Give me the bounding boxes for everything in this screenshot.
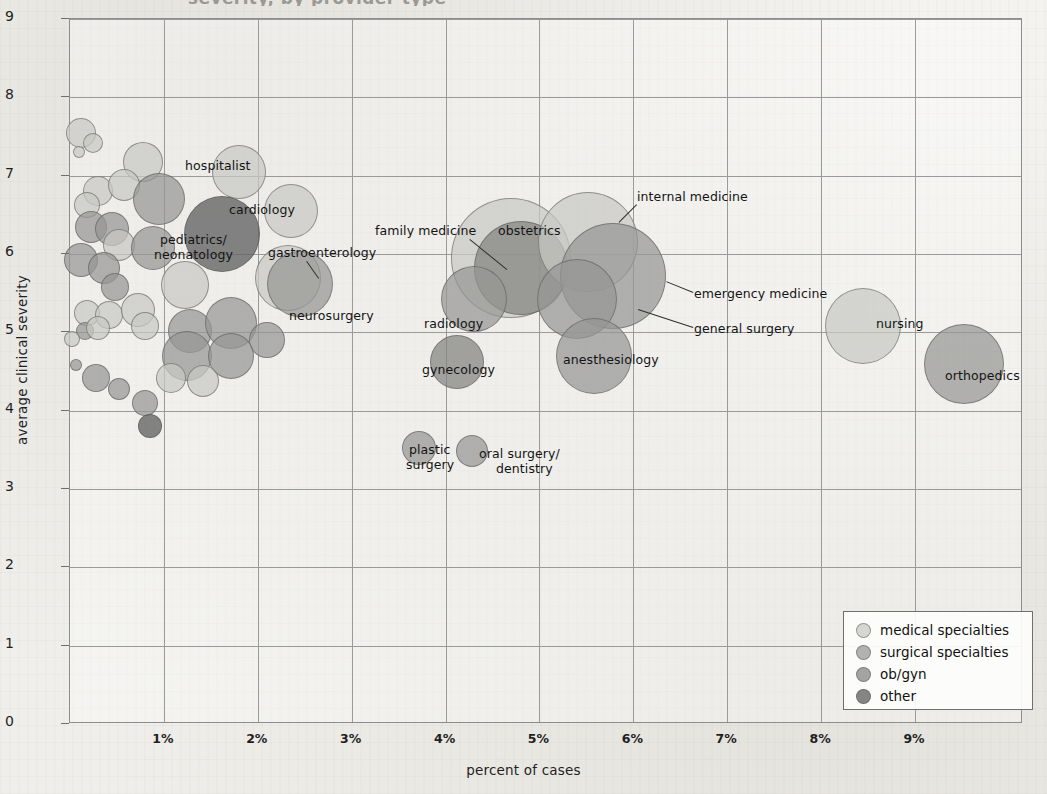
legend-label: surgical specialties bbox=[880, 644, 1008, 660]
bubble-unlabeled-24[interactable] bbox=[133, 173, 185, 225]
legend-label: ob/gyn bbox=[880, 666, 927, 682]
bubble-neurosurgery[interactable] bbox=[267, 251, 333, 317]
bubble-label-gastroenterology: gastroenterology bbox=[268, 246, 376, 260]
y-tick-8: 8 bbox=[0, 86, 14, 102]
y-tick-6: 6 bbox=[0, 243, 14, 259]
bubble-label-oral-surgery: oral surgery/ bbox=[479, 447, 560, 461]
y-tick-mark-1 bbox=[61, 645, 69, 646]
bubble-label-cardiology: cardiology bbox=[229, 203, 295, 217]
legend-swatch-icon bbox=[856, 645, 871, 660]
bubble-label-emergency-medicine: emergency medicine bbox=[694, 287, 827, 301]
x-tick-7%: 7% bbox=[706, 731, 746, 746]
y-tick-mark-2 bbox=[61, 566, 69, 567]
gridline-v-8 bbox=[821, 19, 822, 722]
gridline-h-8 bbox=[70, 97, 1021, 98]
bubble-label-surgery: surgery bbox=[406, 458, 454, 472]
bubble-label-neurosurgery: neurosurgery bbox=[289, 309, 374, 323]
bubble-label-orthopedics: orthopedics bbox=[945, 369, 1020, 383]
legend: medical specialtiessurgical specialtieso… bbox=[843, 611, 1033, 710]
gridline-v-6 bbox=[633, 19, 634, 722]
y-tick-mark-8 bbox=[61, 96, 69, 97]
legend-item-ob-gyn[interactable]: ob/gyn bbox=[856, 663, 1032, 685]
legend-swatch-icon bbox=[856, 689, 871, 704]
bubble-unlabeled-45[interactable] bbox=[70, 359, 82, 371]
bubble-label-family-medicine: family medicine bbox=[375, 224, 476, 238]
y-tick-mark-9 bbox=[61, 18, 69, 19]
legend-label: medical specialties bbox=[880, 622, 1009, 638]
gridline-v-7 bbox=[727, 19, 728, 722]
x-axis-label: percent of cases bbox=[0, 762, 1047, 778]
y-tick-mark-7 bbox=[61, 175, 69, 176]
bubble-unlabeled-50[interactable] bbox=[187, 365, 219, 397]
y-tick-3: 3 bbox=[0, 478, 14, 494]
y-tick-mark-5 bbox=[61, 331, 69, 332]
bubble-label-hospitalist: hospitalist bbox=[185, 159, 251, 173]
bubble-unlabeled-19[interactable] bbox=[73, 146, 85, 158]
bubble-unlabeled-42[interactable] bbox=[249, 322, 285, 358]
legend-item-other[interactable]: other bbox=[856, 685, 1032, 707]
bubble-label-nursing: nursing bbox=[876, 317, 924, 331]
x-tick-4%: 4% bbox=[425, 731, 465, 746]
bubble-unlabeled-39[interactable] bbox=[64, 331, 80, 347]
gridline-h-9 bbox=[70, 19, 1021, 20]
x-tick-5%: 5% bbox=[518, 731, 558, 746]
y-tick-mark-3 bbox=[61, 488, 69, 489]
bubble-orthopedics[interactable] bbox=[924, 324, 1004, 404]
bubble-unlabeled-46[interactable] bbox=[82, 364, 110, 392]
bubble-unlabeled-32[interactable] bbox=[161, 261, 209, 309]
bubble-unlabeled-31[interactable] bbox=[101, 273, 129, 301]
y-tick-5: 5 bbox=[0, 321, 14, 337]
bubble-unlabeled-47[interactable] bbox=[108, 378, 130, 400]
legend-swatch-icon bbox=[856, 667, 871, 682]
x-tick-2%: 2% bbox=[237, 731, 277, 746]
bubble-unlabeled-38[interactable] bbox=[86, 316, 110, 340]
bubble-label-general-surgery: general surgery bbox=[694, 322, 795, 336]
bubble-unlabeled-49[interactable] bbox=[156, 363, 186, 393]
bubble-label-gynecology: gynecology bbox=[422, 363, 495, 377]
leader-line-9 bbox=[666, 281, 693, 293]
gridline-v-3 bbox=[352, 19, 353, 722]
legend-swatch-icon bbox=[856, 623, 871, 638]
y-tick-9: 9 bbox=[0, 8, 14, 24]
gridline-h-4 bbox=[70, 411, 1021, 412]
page-title-bleed: severity, by provider type bbox=[188, 0, 648, 6]
bubble-unlabeled-48[interactable] bbox=[132, 390, 158, 416]
x-tick-1%: 1% bbox=[143, 731, 183, 746]
y-tick-1: 1 bbox=[0, 635, 14, 651]
legend-item-surgical-specialties[interactable]: surgical specialties bbox=[856, 641, 1032, 663]
x-tick-9%: 9% bbox=[894, 731, 934, 746]
x-tick-3%: 3% bbox=[331, 731, 371, 746]
bubble-label-neonatology: neonatology bbox=[154, 248, 233, 262]
gridline-v-2 bbox=[258, 19, 259, 722]
bubble-label-obstetrics: obstetrics bbox=[498, 224, 561, 238]
bubble-label-internal-medicine: internal medicine bbox=[637, 190, 748, 204]
bubble-label-dentistry: dentistry bbox=[496, 462, 553, 476]
gridline-h-2 bbox=[70, 567, 1021, 568]
y-tick-2: 2 bbox=[0, 556, 14, 572]
y-tick-mark-0 bbox=[61, 723, 69, 724]
bubble-unlabeled-36[interactable] bbox=[131, 312, 159, 340]
y-tick-4: 4 bbox=[0, 400, 14, 416]
bubble-unlabeled-18[interactable] bbox=[83, 133, 103, 153]
y-axis-label: average clinical severity bbox=[14, 210, 30, 510]
leader-line-10 bbox=[638, 309, 693, 328]
bubble-label-anesthesiology: anesthesiology bbox=[563, 353, 659, 367]
bubble-label-radiology: radiology bbox=[424, 317, 483, 331]
legend-item-medical-specialties[interactable]: medical specialties bbox=[856, 619, 1032, 641]
bubble-label-pediatrics: pediatrics/ bbox=[160, 233, 227, 247]
y-tick-mark-6 bbox=[61, 253, 69, 254]
bubble-unlabeled-51[interactable] bbox=[138, 414, 162, 438]
y-tick-0: 0 bbox=[0, 713, 14, 729]
gridline-v-5 bbox=[539, 19, 540, 722]
x-tick-8%: 8% bbox=[800, 731, 840, 746]
gridline-h-3 bbox=[70, 489, 1021, 490]
bubble-label-plastic: plastic bbox=[409, 443, 451, 457]
y-tick-mark-4 bbox=[61, 410, 69, 411]
x-tick-6%: 6% bbox=[612, 731, 652, 746]
y-tick-7: 7 bbox=[0, 165, 14, 181]
legend-label: other bbox=[880, 688, 916, 704]
